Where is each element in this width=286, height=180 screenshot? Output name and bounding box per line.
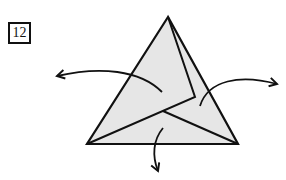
origami-diagram — [0, 0, 286, 180]
triangle-shape — [87, 17, 238, 144]
